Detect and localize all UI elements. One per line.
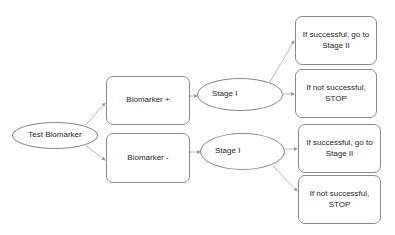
positive-success-line2: Stage II xyxy=(303,41,369,52)
negative-success-line1: If successful, go to xyxy=(306,138,372,149)
test-biomarker-node: Test Biomarker xyxy=(12,122,98,149)
stage-one-negative-label: Stage I xyxy=(215,146,240,157)
arrow-root-to-biomarker-negative xyxy=(86,146,105,160)
biomarker-negative-label: Biomarker - xyxy=(127,153,168,164)
stage-one-negative-node: Stage I xyxy=(200,133,285,170)
biomarker-positive-node: Biomarker + xyxy=(106,76,190,125)
arrow-stage-pos-to-success xyxy=(270,41,294,82)
negative-success-line2: Stage II xyxy=(306,149,372,160)
positive-success-line1: If successful, go to xyxy=(303,30,369,41)
positive-stop-line2: STOP xyxy=(306,94,366,105)
arrow-root-to-biomarker-positive xyxy=(86,103,105,125)
stage-one-positive-label: Stage I xyxy=(212,89,237,100)
stage-one-positive-node: Stage I xyxy=(197,78,283,111)
test-biomarker-label: Test Biomarker xyxy=(28,130,81,141)
arrow-stage-neg-to-stop xyxy=(273,166,297,191)
negative-stop-line1: If not successful, xyxy=(310,189,370,200)
negative-stop-line2: STOP xyxy=(310,200,370,211)
biomarker-negative-node: Biomarker - xyxy=(106,133,190,183)
biomarker-positive-label: Biomarker + xyxy=(126,95,169,106)
positive-stop-node: If not successful, STOP xyxy=(295,69,377,118)
negative-success-node: If successful, go to Stage II xyxy=(298,124,381,173)
positive-success-node: If successful, go to Stage II xyxy=(295,16,377,65)
negative-stop-node: If not successful, STOP xyxy=(298,175,381,224)
positive-stop-line1: If not successful, xyxy=(306,83,366,94)
